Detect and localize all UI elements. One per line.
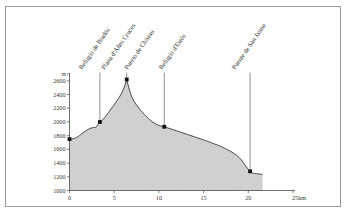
figure-root: 100012001400160018002000220024002600m051… [0,0,347,214]
y-axis-tick-label: 2200 [53,104,65,111]
elevation-area-fill [70,79,263,190]
y-axis-tick-label: 1800 [53,132,65,139]
x-axis-tick-label: 15 [201,194,207,201]
waypoint-label: Puente de San Jaime [230,22,267,71]
x-axis-tick-label: 10 [156,194,162,201]
waypoint-marker[interactable] [248,169,252,173]
y-axis-unit-label: m [62,71,67,77]
elevation-profile-chart: 100012001400160018002000220024002600m051… [0,0,347,214]
waypoint-marker[interactable] [98,120,102,124]
waypoint-marker[interactable] [68,137,72,141]
y-axis-tick-label: 1400 [53,159,65,166]
x-axis-tick-label: 0 [68,194,71,201]
chart-layers: 100012001400160018002000220024002600m051… [53,22,306,201]
waypoint-label: Refugio d'Estós [157,32,187,71]
y-axis-tick-label: 1600 [53,145,65,152]
y-axis-tick-label: 1000 [53,187,65,194]
x-axis-tick-label: 5 [113,194,116,201]
x-axis-tick-label: 25km [292,194,306,201]
waypoint-marker[interactable] [125,78,129,82]
y-axis-tick-label: 2000 [53,118,65,125]
y-axis-tick-label: 2600 [53,77,65,84]
waypoint-marker[interactable] [162,125,166,129]
x-axis-tick-label: 20 [245,194,251,201]
y-axis-tick-label: 1200 [53,173,65,180]
y-axis-tick-label: 2400 [53,91,65,98]
